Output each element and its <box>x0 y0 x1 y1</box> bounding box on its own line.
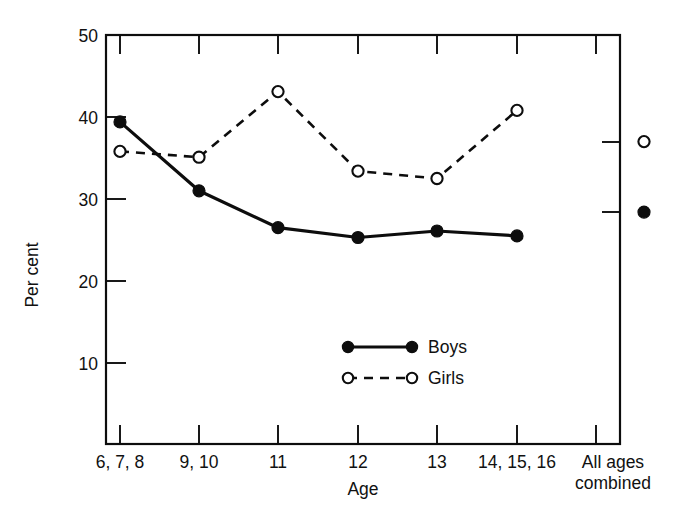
line-chart: 50 40 30 20 10 Per cent <box>0 0 690 525</box>
x-tick-label-3: 11 <box>269 452 287 472</box>
data-point <box>114 116 126 128</box>
x-tick-label-4: 12 <box>348 452 367 472</box>
boys-markers <box>114 116 650 244</box>
legend-item-boys: Boys <box>342 337 467 357</box>
legend-item-girls: Girls <box>343 368 464 388</box>
data-point <box>352 232 364 244</box>
y-tick-label-40: 40 <box>79 108 99 128</box>
x-tick-label-6: 14, 15, 16 <box>478 452 556 472</box>
data-point <box>638 206 650 218</box>
y-tick-label-20: 20 <box>79 272 99 292</box>
data-point <box>511 105 522 116</box>
series-girls <box>114 86 649 184</box>
y-tick-label-30: 30 <box>79 190 99 210</box>
top-axis-ticks <box>120 35 596 54</box>
legend-label-girls: Girls <box>428 368 464 388</box>
x-axis-ticks <box>120 425 596 444</box>
x-tick-label-7-line2: combined <box>575 473 651 493</box>
data-point <box>114 146 125 157</box>
boys-line <box>120 122 517 238</box>
x-tick-label-5: 13 <box>427 452 446 472</box>
y-axis-title: Per cent <box>22 242 42 307</box>
y-tick-label-50: 50 <box>79 26 99 46</box>
data-point <box>511 230 523 242</box>
data-point <box>638 136 649 147</box>
legend-label-boys: Boys <box>428 337 467 357</box>
chart-figure: 50 40 30 20 10 Per cent <box>0 0 690 525</box>
x-tick-label-1: 6, 7, 8 <box>96 452 145 472</box>
data-point <box>193 185 205 197</box>
data-point <box>272 222 284 234</box>
legend-boys-marker-right <box>406 341 417 352</box>
series-boys <box>114 116 650 244</box>
legend-girls-marker-right <box>407 373 417 383</box>
data-point <box>193 152 204 163</box>
right-axis-ticks <box>602 142 620 212</box>
data-point <box>272 86 283 97</box>
legend-girls-marker-left <box>343 373 353 383</box>
girls-line <box>120 92 517 179</box>
data-point <box>431 225 443 237</box>
x-tick-label-7-line1: All ages <box>582 452 645 472</box>
girls-markers <box>114 86 649 184</box>
x-axis-title: Age <box>347 479 378 499</box>
x-tick-label-2: 9, 10 <box>180 452 219 472</box>
y-axis-tick-labels: 50 40 30 20 10 <box>79 26 99 374</box>
legend-boys-marker-left <box>342 341 353 352</box>
data-point <box>431 173 442 184</box>
data-point <box>352 166 363 177</box>
legend: Boys Girls <box>342 337 467 388</box>
y-tick-label-10: 10 <box>79 354 99 374</box>
